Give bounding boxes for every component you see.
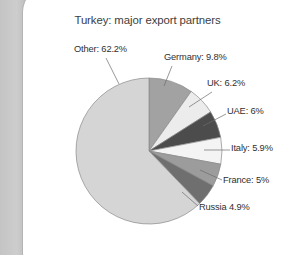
pie-label-uk: UK: 6.2% bbox=[207, 78, 245, 88]
pie-label-italy: Italy: 5.9% bbox=[231, 143, 273, 153]
pie-label-uae: UAE: 6% bbox=[227, 106, 264, 116]
leader-line-other bbox=[106, 58, 119, 84]
pie-label-russia: Russia 4.9% bbox=[199, 202, 250, 212]
pie-chart-figure: Turkey: major export partners Other: 62.… bbox=[0, 0, 299, 255]
pie-label-germany: Germany: 9.8% bbox=[164, 52, 227, 62]
pie-label-france: France: 5% bbox=[223, 175, 269, 185]
page-root: Turkey: major export partners Other: 62.… bbox=[0, 0, 299, 255]
pie-label-other: Other: 62.2% bbox=[74, 44, 127, 54]
pie-chart-svg bbox=[0, 0, 299, 255]
